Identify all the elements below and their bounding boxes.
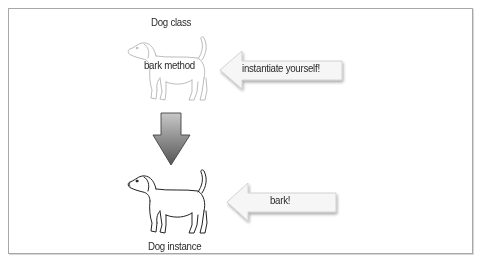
dog-instance-title: Dog instance	[148, 240, 201, 252]
bark-method-label: bark method	[144, 59, 195, 71]
down-arrow-icon	[152, 112, 192, 166]
instantiate-callout-label: instantiate yourself!	[242, 62, 320, 74]
dog-outline-icon	[126, 167, 216, 237]
bark-callout-label: bark!	[270, 194, 290, 206]
dog-class-title: Dog class	[151, 16, 191, 28]
